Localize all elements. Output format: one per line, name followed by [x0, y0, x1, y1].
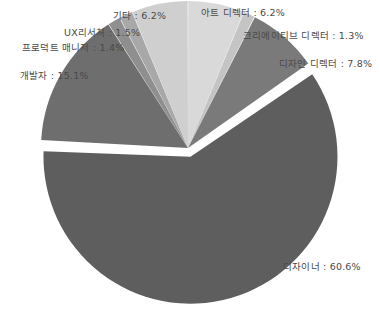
label-creative-director: 크리에이티브 디렉터 : 1.3% — [243, 31, 364, 41]
pie-chart: 아트 디렉터 : 6.2% 크리에이티브 디렉터 : 1.3% 디자인 디렉터 … — [0, 0, 380, 309]
label-product-manager: 프로덕트 매니저 : 1.4% — [22, 43, 124, 53]
label-ux-researcher: UX리서처 : 1.5% — [64, 28, 140, 38]
label-designer: 디자이너 : 60.6% — [283, 262, 361, 272]
label-etc: 기타 : 6.2% — [113, 11, 166, 21]
label-design-director: 디자인 디렉터 : 7.8% — [279, 59, 372, 69]
label-art-director: 아트 디렉터 : 6.2% — [201, 8, 285, 18]
label-developer: 개발자 : 15.1% — [20, 71, 89, 81]
